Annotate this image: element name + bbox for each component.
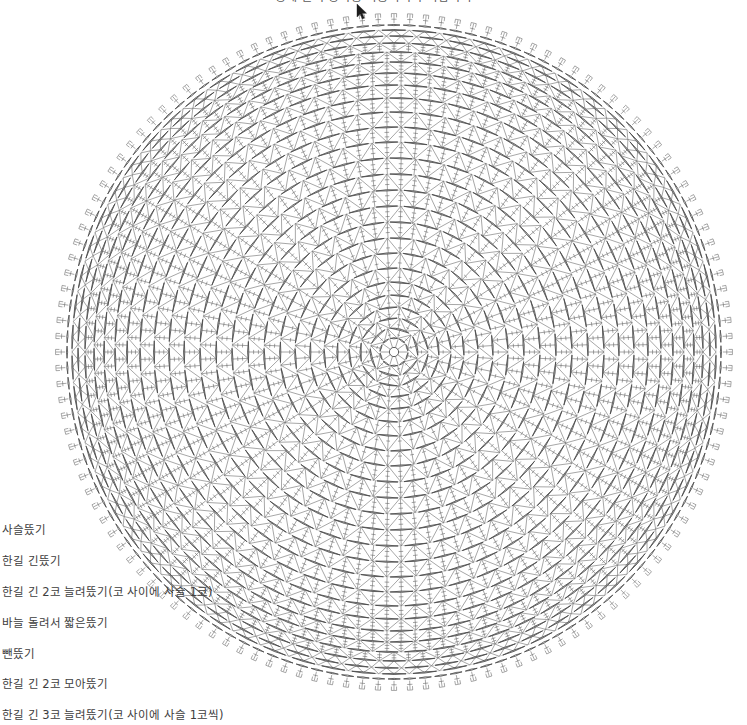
legend-item-label: 한길 긴뜼기 — [2, 554, 61, 568]
legend-item-label: 한길 긴 2코 늘려뜼기(코 사이에 사슬 1코) — [2, 585, 213, 599]
legend-item: 바늘 돌려서 짧은뜼기 — [0, 607, 300, 638]
stitch-posts — [169, 127, 619, 577]
guide-circle — [216, 174, 572, 530]
guide-circle — [184, 142, 604, 562]
chain-ring — [337, 295, 451, 409]
legend: 사슬뜼기 한길 긴뜼기 한길 긴 2코 늘려뜼기(코 사이에 사슬 1코) 바늘… — [0, 515, 300, 725]
legend-item-label: 한길 긴 3코 늘려뜼기(코 사이에 사슬 1코씩) — [2, 708, 224, 722]
stitch-crossbars — [222, 180, 567, 525]
legend-item-label: 한길 긴 2코 모아뜼기 — [2, 677, 108, 691]
chain-ring — [184, 142, 605, 563]
chain-ring — [216, 174, 573, 531]
legend-item: 한길 긴 2코 늘려뜼기(코 사이에 사슬 1코) — [0, 577, 300, 608]
stitch-posts — [216, 174, 572, 530]
guide-circle — [169, 127, 619, 577]
legend-item-label: 사슬뜼기 — [2, 523, 46, 537]
v-stitch-row — [169, 127, 619, 577]
v-stitch-row — [217, 174, 572, 530]
legend-item: 한길 긴뜼기 — [0, 546, 300, 577]
legend-item: 뺀뜼기 — [0, 638, 300, 669]
legend-item: 한길 긴 3코 늘려뜼기(코 사이에 사슬 1코씩) — [0, 700, 300, 725]
legend-item: 사슬뜼기 — [0, 515, 300, 546]
legend-item: 한길 긴 2코 모아뜼기 — [0, 669, 300, 700]
stitch-posts — [184, 142, 604, 562]
magic-ring-core — [389, 347, 398, 356]
legend-item-label: 뺀뜼기 — [2, 647, 35, 661]
legend-item-label: 바늘 돌려서 짧은뜼기 — [2, 616, 108, 630]
stitch-posts — [371, 329, 417, 375]
chain-ring — [310, 268, 478, 437]
stitch-crossbars — [367, 325, 422, 380]
chain-ring — [169, 127, 620, 578]
